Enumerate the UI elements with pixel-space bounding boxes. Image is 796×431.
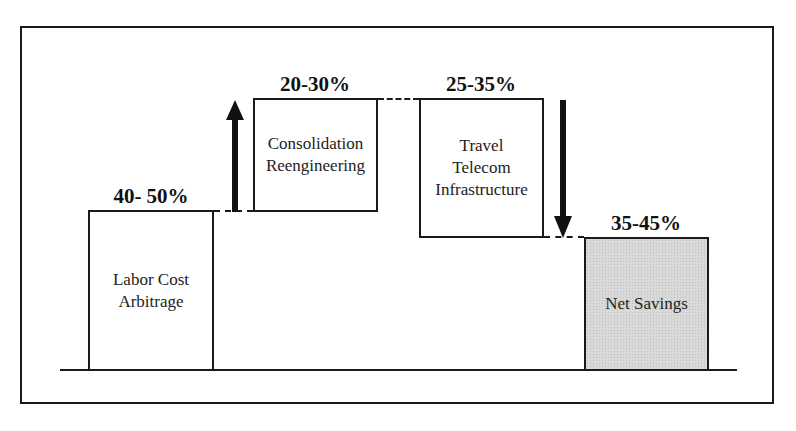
- travel-label: Travel Telecom Infrastructure: [435, 135, 528, 201]
- net-savings-bar: Net Savings: [584, 237, 709, 371]
- net-savings-label: Net Savings: [605, 293, 688, 315]
- consolidation-bar: Consolidation Reengineering: [253, 98, 378, 212]
- labor-cost-value: 40- 50%: [88, 184, 214, 209]
- consolidation-label: Consolidation Reengineering: [266, 133, 365, 177]
- arrow-up-icon: [225, 100, 245, 212]
- labor-cost-bar: Labor Cost Arbitrage: [88, 210, 214, 371]
- connector-dash-2: [378, 98, 419, 100]
- arrow-down-icon: [553, 100, 573, 238]
- net-savings-value: 35-45%: [584, 211, 708, 236]
- consolidation-value: 20-30%: [253, 72, 377, 97]
- labor-cost-label: Labor Cost Arbitrage: [113, 269, 189, 313]
- travel-bar: Travel Telecom Infrastructure: [419, 98, 544, 238]
- travel-value: 25-35%: [419, 72, 543, 97]
